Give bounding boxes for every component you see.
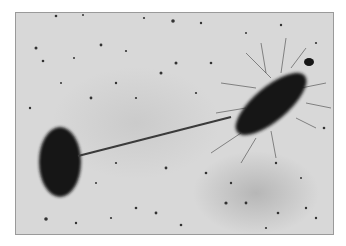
micrograph-svg bbox=[16, 13, 333, 234]
background-speckles bbox=[29, 14, 326, 229]
small-particle bbox=[304, 58, 314, 66]
micrograph-photo bbox=[15, 12, 334, 235]
left-bacterium bbox=[39, 127, 81, 197]
pilus-connection bbox=[78, 117, 231, 156]
right-bacterium bbox=[226, 63, 315, 146]
